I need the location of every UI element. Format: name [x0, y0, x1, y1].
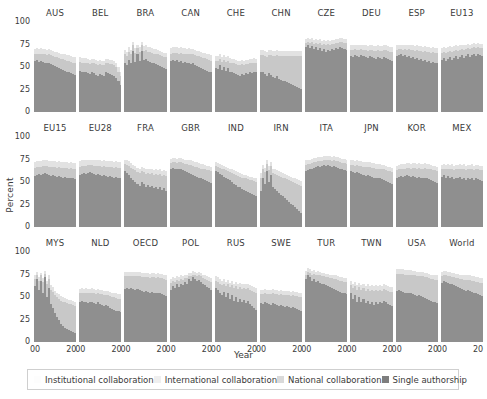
- stacked-bar[interactable]: [481, 252, 483, 342]
- facet-panel-che[interactable]: CHE: [215, 8, 257, 112]
- legend-item-institutional[interactable]: Institutional collaboration: [34, 375, 154, 385]
- legend-item-national[interactable]: National collaboration: [277, 375, 382, 385]
- facet-panel-title: EU15: [34, 123, 76, 133]
- legend-item-single[interactable]: Single authorship: [382, 375, 467, 385]
- bar-segment-natl: [74, 63, 76, 76]
- facet-panel-gbr[interactable]: GBR: [170, 123, 212, 227]
- facet-panel-irn[interactable]: IRN: [260, 123, 302, 227]
- bar-group: [305, 137, 347, 227]
- facet-panel-rus[interactable]: RUS: [215, 238, 257, 342]
- stacked-bar[interactable]: [346, 137, 348, 227]
- stacked-bar[interactable]: [391, 137, 393, 227]
- bar-segment-natl: [391, 52, 393, 61]
- facet-panel-pol[interactable]: POL: [170, 238, 212, 342]
- facet-panel-eu28[interactable]: EU28: [79, 123, 121, 227]
- facet-panel-esp[interactable]: ESP: [396, 8, 438, 112]
- stacked-bar[interactable]: [210, 22, 212, 112]
- stacked-bar[interactable]: [481, 137, 483, 227]
- facet-panel-title: AUS: [34, 8, 76, 18]
- facet-plot-area: [215, 22, 257, 112]
- x-tick-label: 00: [437, 345, 447, 354]
- bar-segment-natl: [300, 186, 302, 213]
- stacked-bar[interactable]: [120, 137, 122, 227]
- facet-panel-title: TWN: [350, 238, 392, 248]
- legend-label-national: National collaboration: [288, 375, 382, 385]
- facet-panel-ita[interactable]: ITA: [305, 123, 347, 227]
- x-tick-label: 20: [473, 345, 483, 354]
- stacked-bar[interactable]: [346, 22, 348, 112]
- facet-panel-kor[interactable]: KOR: [396, 123, 438, 227]
- bar-segment-natl: [391, 172, 393, 184]
- stacked-bar[interactable]: [300, 252, 302, 342]
- stacked-bar[interactable]: [255, 22, 257, 112]
- stacked-bar[interactable]: [120, 252, 122, 342]
- bar-segment-natl: [300, 297, 302, 311]
- bar-group: [350, 22, 392, 112]
- stacked-bar[interactable]: [300, 22, 302, 112]
- bar-segment-sing: [120, 178, 122, 227]
- facet-panel-nld[interactable]: NLD: [79, 238, 121, 342]
- facet-panel-mex[interactable]: MEX: [441, 123, 483, 227]
- facet-panel-eu13[interactable]: EU13: [441, 8, 483, 112]
- stacked-bar[interactable]: [210, 252, 212, 342]
- stacked-bar[interactable]: [255, 137, 257, 227]
- bar-segment-sing: [165, 296, 167, 342]
- stacked-bar[interactable]: [436, 137, 438, 227]
- facet-panel-cze[interactable]: CZE: [305, 8, 347, 112]
- facet-panel-title: CZE: [305, 8, 347, 18]
- stacked-bar[interactable]: [481, 22, 483, 112]
- bar-group: [124, 22, 166, 112]
- facet-panel-chn[interactable]: CHN: [260, 8, 302, 112]
- stacked-bar[interactable]: [346, 252, 348, 342]
- facet-panel-usa[interactable]: USA: [396, 238, 438, 342]
- bar-segment-sing: [255, 310, 257, 342]
- facet-panel-mys[interactable]: MYS: [34, 238, 76, 342]
- stacked-bar[interactable]: [255, 252, 257, 342]
- stacked-bar[interactable]: [436, 22, 438, 112]
- facet-plot-area: [350, 22, 392, 112]
- stacked-bar[interactable]: [165, 137, 167, 227]
- facet-panel-jpn[interactable]: JPN: [350, 123, 392, 227]
- facet-panel-bra[interactable]: BRA: [124, 8, 166, 112]
- bar-segment-natl: [120, 168, 122, 179]
- stacked-bar[interactable]: [210, 137, 212, 227]
- facet-panel-oecd[interactable]: OECD: [124, 238, 166, 342]
- facet-panel-fra[interactable]: FRA: [124, 123, 166, 227]
- stacked-bar[interactable]: [165, 22, 167, 112]
- stacked-bar[interactable]: [391, 22, 393, 112]
- facet-panel-deu[interactable]: DEU: [350, 8, 392, 112]
- facet-panel-ind[interactable]: IND: [215, 123, 257, 227]
- facet-panel-can[interactable]: CAN: [170, 8, 212, 112]
- stacked-bar[interactable]: [300, 137, 302, 227]
- bar-segment-natl: [300, 56, 302, 88]
- stacked-bar[interactable]: [74, 137, 76, 227]
- facet-panel-aus[interactable]: AUS: [34, 8, 76, 112]
- facet-plot-area: [170, 22, 212, 112]
- stacked-bar[interactable]: [120, 22, 122, 112]
- bar-segment-sing: [436, 303, 438, 342]
- facet-panel-swe[interactable]: SWE: [260, 238, 302, 342]
- facet-panel-twn[interactable]: TWN: [350, 238, 392, 342]
- stacked-bar[interactable]: [436, 252, 438, 342]
- facet-plot-area: [396, 252, 438, 342]
- stacked-bar[interactable]: [391, 252, 393, 342]
- bar-segment-sing: [300, 213, 302, 227]
- bar-segment-natl: [165, 57, 167, 69]
- stacked-bar[interactable]: [165, 252, 167, 342]
- facet-panel-bel[interactable]: BEL: [79, 8, 121, 112]
- facet-plot-area: [396, 22, 438, 112]
- facet-panel-tur[interactable]: TUR: [305, 238, 347, 342]
- bar-group: [79, 22, 121, 112]
- bar-group: [305, 252, 347, 342]
- bar-segment-sing: [391, 306, 393, 342]
- bar-segment-natl: [165, 176, 167, 191]
- stacked-bar[interactable]: [74, 252, 76, 342]
- facet-panel-eu15[interactable]: EU15: [34, 123, 76, 227]
- facet-panel-title: RUS: [215, 238, 257, 248]
- facet-panel-world[interactable]: World: [441, 238, 483, 342]
- facet-plot-area: [350, 137, 392, 227]
- bar-segment-sing: [210, 72, 212, 112]
- legend-swatch-national-icon: [277, 376, 284, 383]
- stacked-bar[interactable]: [74, 22, 76, 112]
- legend-item-international[interactable]: International collaboration: [154, 375, 277, 385]
